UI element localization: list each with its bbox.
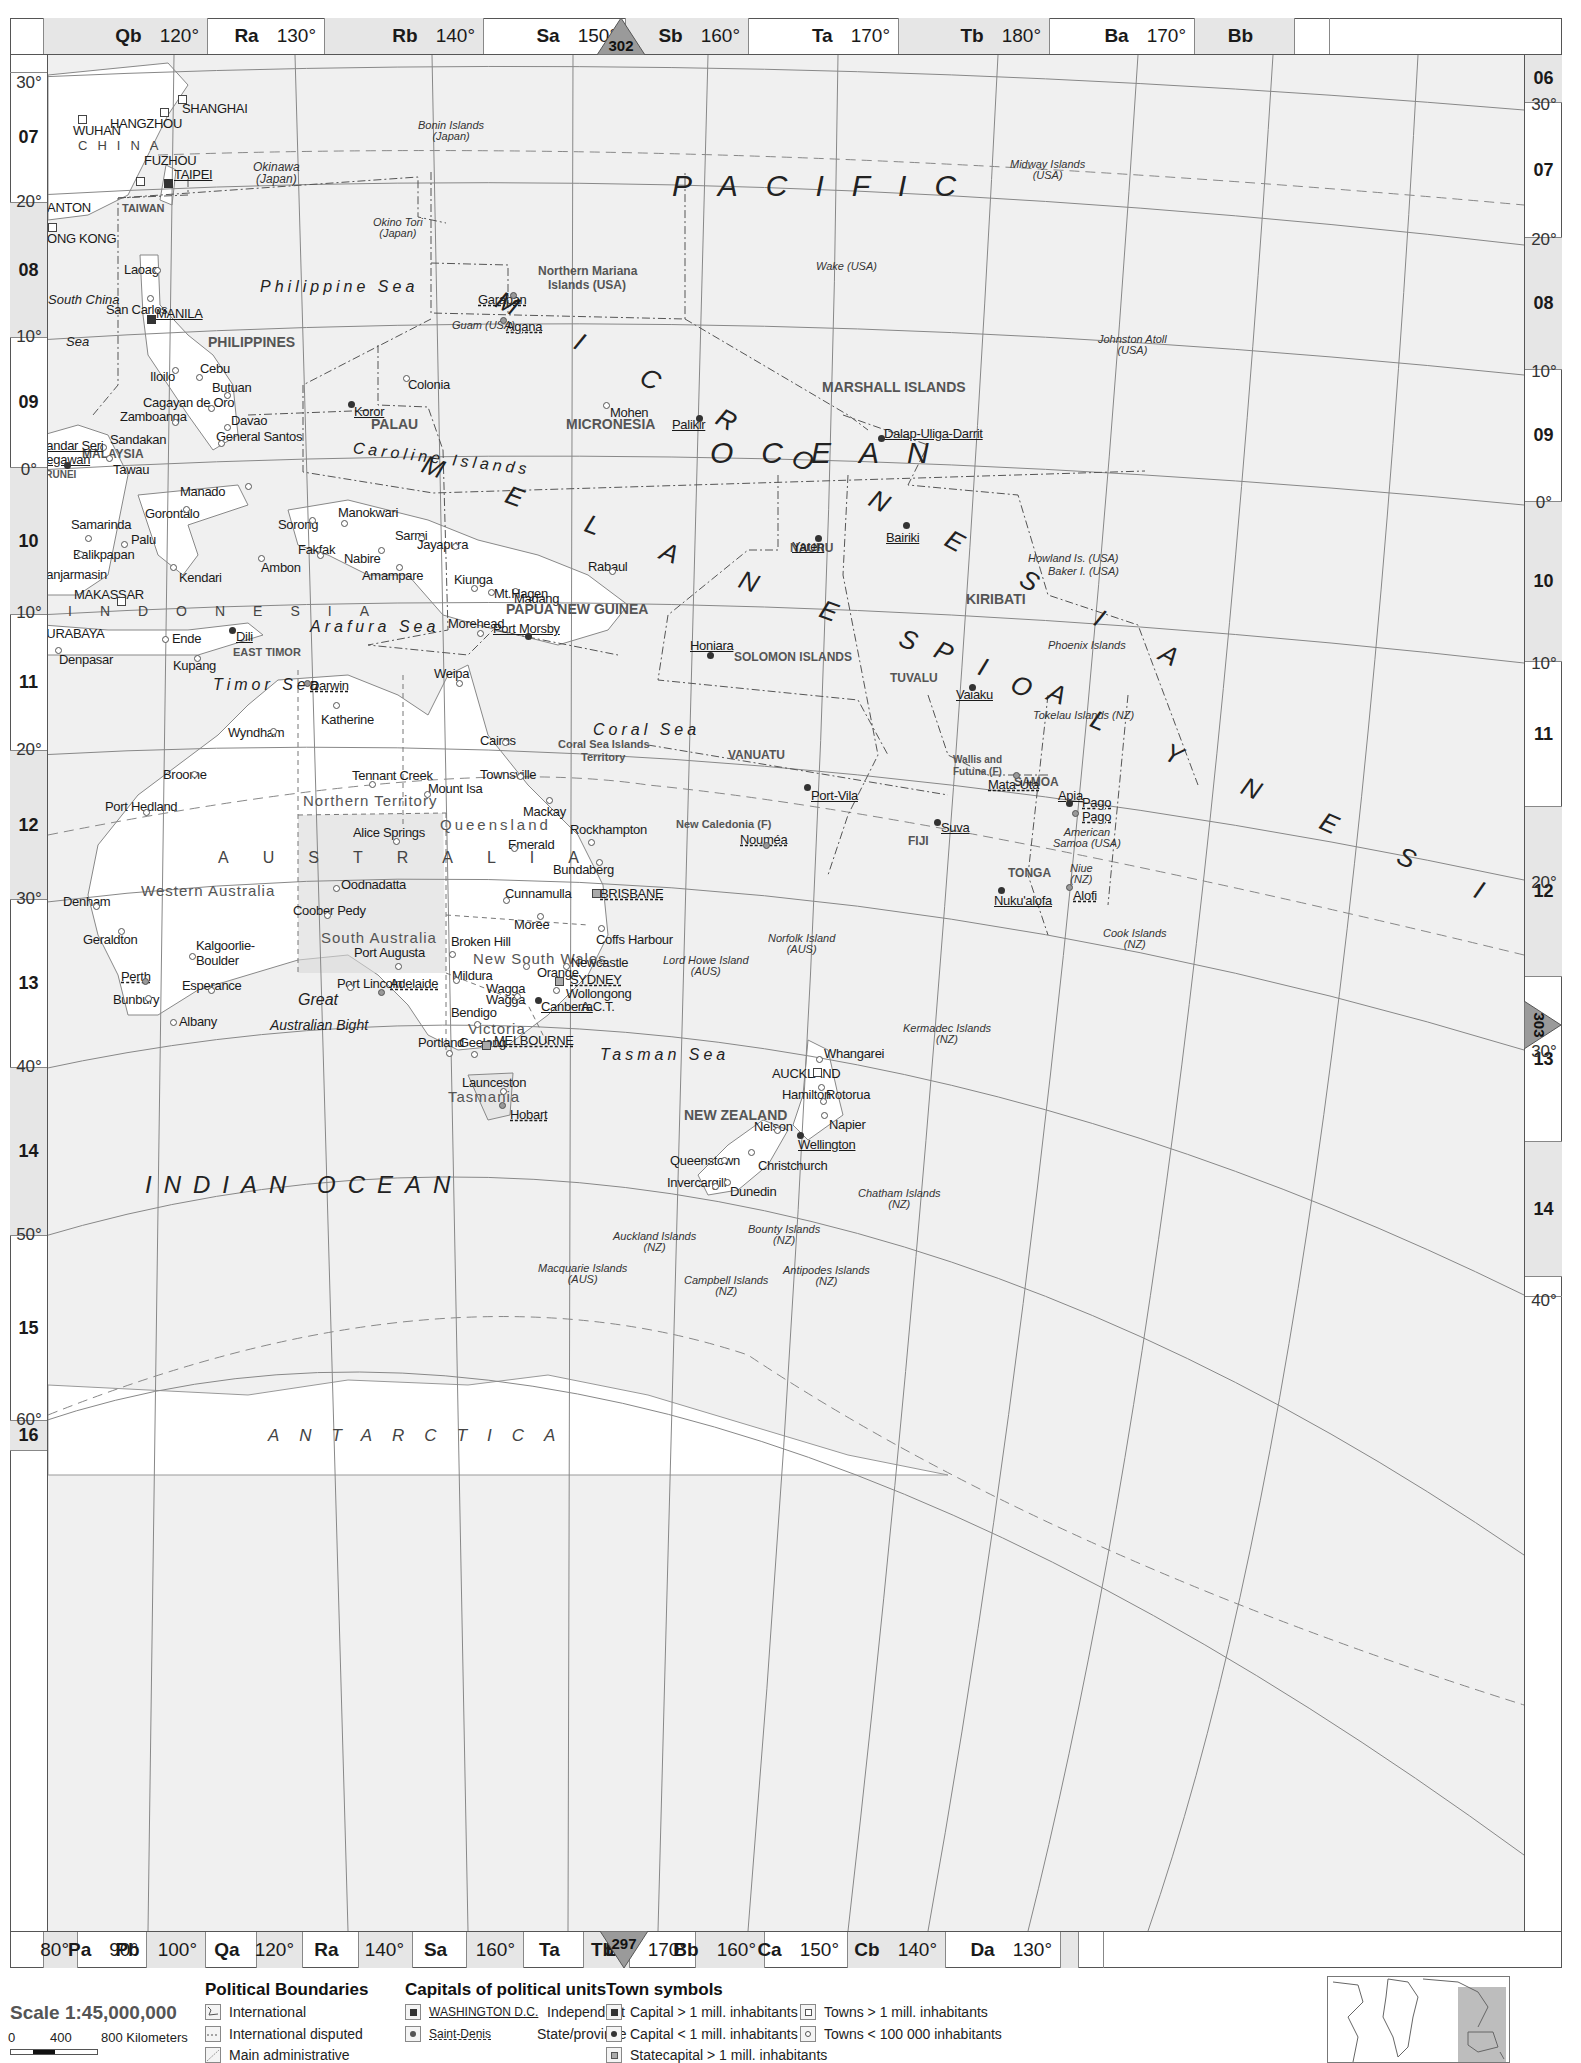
page-reference-297-icon[interactable]: 297 xyxy=(599,1931,649,1968)
city-marker-icon[interactable] xyxy=(324,912,331,919)
city-marker-icon[interactable] xyxy=(488,589,495,596)
city-marker-icon[interactable] xyxy=(348,401,355,408)
city-marker-icon[interactable] xyxy=(596,859,603,866)
city-marker-icon[interactable] xyxy=(763,842,770,849)
city-marker-icon[interactable] xyxy=(117,597,126,606)
city-marker-icon[interactable] xyxy=(555,977,564,986)
city-marker-icon[interactable] xyxy=(218,440,225,447)
city-marker-icon[interactable] xyxy=(903,522,910,529)
city-marker-icon[interactable] xyxy=(162,636,169,643)
city-marker-icon[interactable] xyxy=(603,402,610,409)
city-marker-icon[interactable] xyxy=(456,680,463,687)
city-marker-icon[interactable] xyxy=(369,781,376,788)
city-marker-icon[interactable] xyxy=(395,963,402,970)
city-marker-icon[interactable] xyxy=(592,889,601,898)
city-marker-icon[interactable] xyxy=(77,551,84,558)
city-marker-icon[interactable] xyxy=(147,295,154,302)
city-marker-icon[interactable] xyxy=(499,1102,506,1109)
city-marker-icon[interactable] xyxy=(378,989,385,996)
page-reference-303-icon[interactable]: 303 xyxy=(1524,1000,1561,1050)
city-marker-icon[interactable] xyxy=(347,984,354,991)
city-marker-icon[interactable] xyxy=(136,177,145,186)
city-marker-icon[interactable] xyxy=(537,913,544,920)
city-marker-icon[interactable] xyxy=(172,419,179,426)
city-marker-icon[interactable] xyxy=(196,374,203,381)
city-marker-icon[interactable] xyxy=(696,415,703,422)
city-marker-icon[interactable] xyxy=(172,367,179,374)
city-marker-icon[interactable] xyxy=(500,1088,507,1095)
city-marker-icon[interactable] xyxy=(546,797,553,804)
city-marker-icon[interactable] xyxy=(106,455,113,462)
city-marker-icon[interactable] xyxy=(48,223,57,232)
city-marker-icon[interactable] xyxy=(170,1019,177,1026)
city-marker-icon[interactable] xyxy=(934,819,941,826)
city-marker-icon[interactable] xyxy=(510,292,517,299)
city-marker-icon[interactable] xyxy=(208,987,215,994)
city-marker-icon[interactable] xyxy=(229,627,236,634)
city-marker-icon[interactable] xyxy=(378,547,385,554)
city-marker-icon[interactable] xyxy=(333,885,340,892)
city-marker-icon[interactable] xyxy=(55,647,62,654)
city-marker-icon[interactable] xyxy=(194,655,201,662)
city-marker-icon[interactable] xyxy=(816,1056,823,1063)
city-marker-icon[interactable] xyxy=(553,987,560,994)
city-marker-icon[interactable] xyxy=(424,791,431,798)
map-canvas[interactable]: PACIFICOCEANINDIAN OCEANM I C R O N E S … xyxy=(48,55,1524,1931)
city-marker-icon[interactable] xyxy=(164,179,173,188)
city-marker-icon[interactable] xyxy=(998,887,1005,894)
city-marker-icon[interactable] xyxy=(147,315,156,324)
city-marker-icon[interactable] xyxy=(813,1068,822,1077)
city-marker-icon[interactable] xyxy=(64,462,71,469)
city-marker-icon[interactable] xyxy=(142,978,149,985)
city-marker-icon[interactable] xyxy=(118,928,125,935)
city-marker-icon[interactable] xyxy=(482,1041,491,1050)
city-marker-icon[interactable] xyxy=(721,1157,728,1164)
city-marker-icon[interactable] xyxy=(396,564,403,571)
city-marker-icon[interactable] xyxy=(502,739,509,746)
city-marker-icon[interactable] xyxy=(93,903,100,910)
city-marker-icon[interactable] xyxy=(804,784,811,791)
city-marker-icon[interactable] xyxy=(523,963,530,970)
city-marker-icon[interactable] xyxy=(1013,772,1020,779)
city-marker-icon[interactable] xyxy=(160,108,169,117)
city-marker-icon[interactable] xyxy=(258,555,265,562)
city-marker-icon[interactable] xyxy=(477,630,484,637)
city-marker-icon[interactable] xyxy=(393,838,400,845)
city-marker-icon[interactable] xyxy=(588,839,595,846)
city-marker-icon[interactable] xyxy=(208,405,215,412)
city-marker-icon[interactable] xyxy=(511,845,518,852)
city-marker-icon[interactable] xyxy=(471,1051,478,1058)
city-marker-icon[interactable] xyxy=(154,267,161,274)
city-marker-icon[interactable] xyxy=(403,375,410,382)
city-marker-icon[interactable] xyxy=(78,115,87,124)
city-marker-icon[interactable] xyxy=(1066,800,1073,807)
city-marker-icon[interactable] xyxy=(514,993,521,1000)
city-marker-icon[interactable] xyxy=(453,977,460,984)
city-marker-icon[interactable] xyxy=(189,953,196,960)
city-marker-icon[interactable] xyxy=(333,702,340,709)
city-marker-icon[interactable] xyxy=(143,809,150,816)
city-marker-icon[interactable] xyxy=(724,1179,731,1186)
city-marker-icon[interactable] xyxy=(815,535,822,542)
city-marker-icon[interactable] xyxy=(748,1149,755,1156)
city-marker-icon[interactable] xyxy=(503,897,510,904)
city-marker-icon[interactable] xyxy=(309,517,316,524)
city-marker-icon[interactable] xyxy=(449,951,456,958)
city-marker-icon[interactable] xyxy=(446,1050,453,1057)
city-marker-icon[interactable] xyxy=(1066,884,1073,891)
city-marker-icon[interactable] xyxy=(821,1112,828,1119)
city-marker-icon[interactable] xyxy=(969,684,976,691)
page-reference-302-icon[interactable]: 302 xyxy=(596,18,646,55)
city-marker-icon[interactable] xyxy=(317,552,324,559)
city-marker-icon[interactable] xyxy=(245,483,252,490)
city-marker-icon[interactable] xyxy=(270,728,277,735)
city-marker-icon[interactable] xyxy=(598,925,605,932)
city-marker-icon[interactable] xyxy=(145,995,152,1002)
city-marker-icon[interactable] xyxy=(170,564,177,571)
city-marker-icon[interactable] xyxy=(820,1098,827,1105)
locator-inset-map[interactable] xyxy=(1327,1976,1510,2063)
city-marker-icon[interactable] xyxy=(878,435,885,442)
city-marker-icon[interactable] xyxy=(525,633,532,640)
city-marker-icon[interactable] xyxy=(500,317,507,324)
city-marker-icon[interactable] xyxy=(774,1127,781,1134)
